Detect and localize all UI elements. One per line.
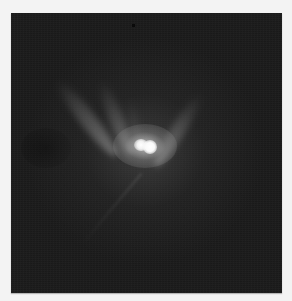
core-lobe-right: [143, 140, 157, 154]
page: [0, 0, 292, 301]
asteroid-photo: [11, 13, 282, 293]
dark-pixel: [132, 24, 135, 27]
